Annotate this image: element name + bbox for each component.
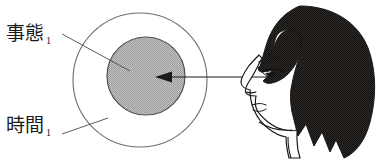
label-jikan-subscript: 1 bbox=[46, 127, 51, 138]
figure-root: 事態1 時間1 bbox=[0, 0, 379, 162]
diagram-canvas bbox=[0, 0, 379, 162]
label-jikan: 時間1 bbox=[6, 116, 49, 135]
label-jitai-subscript: 1 bbox=[46, 35, 51, 46]
upper-lip-icon bbox=[252, 104, 266, 106]
label-jitai: 事態1 bbox=[6, 24, 49, 43]
nose-icon bbox=[246, 92, 256, 93]
label-jikan-text: 時間 bbox=[6, 115, 44, 136]
label-jitai-text: 事態 bbox=[6, 23, 44, 44]
woman-profile-face bbox=[241, 6, 375, 158]
hair-mass-icon bbox=[260, 6, 375, 158]
inner-gray-circle bbox=[107, 37, 185, 115]
